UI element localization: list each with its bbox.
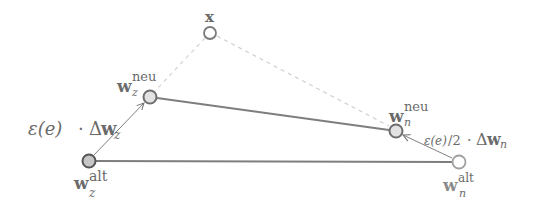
node-x <box>204 27 216 39</box>
label-wz-alt-sub: z <box>88 186 96 200</box>
annotation-winner-sub: z <box>113 128 121 142</box>
label-wn-alt-sub: n <box>459 187 466 200</box>
annotation-neighbor-delta: Δ <box>476 130 488 149</box>
label-wz-neu-sub: z <box>131 86 138 99</box>
annotation-winner-eps: ε(e) <box>28 118 62 139</box>
dashed-edge-x-wz-neu <box>155 38 205 91</box>
label-wz-neu-base: w <box>116 76 132 96</box>
annotation-neighbor-sub: n <box>500 138 507 151</box>
label-wn-alt-base: w <box>442 175 458 195</box>
node-wz-alt <box>83 155 96 168</box>
edge-wz-neu-wn-neu <box>157 98 389 130</box>
label-wz-alt: w alt z <box>73 168 108 200</box>
annotation-winner-update: ε(e) · Δ w z <box>28 118 121 142</box>
label-x: x <box>205 8 215 26</box>
label-wn-neu: w neu n <box>388 99 428 129</box>
annotation-neighbor-frac: /2 <box>448 133 461 148</box>
node-wn-neu <box>390 125 403 138</box>
node-wz-neu <box>144 91 157 104</box>
annotation-winner-dot: · <box>78 118 84 139</box>
annotation-neighbor-dot: · <box>467 132 471 148</box>
label-wz-alt-sup: alt <box>89 168 108 184</box>
label-wn-alt: w alt n <box>442 171 474 200</box>
node-wn-alt <box>453 156 466 169</box>
label-wn-neu-sup: neu <box>404 99 428 114</box>
label-wn-neu-sub: n <box>404 116 411 129</box>
label-wn-alt-sup: alt <box>458 171 474 185</box>
label-wz-alt-base: w <box>73 173 89 193</box>
label-wz-neu-sup: neu <box>132 69 156 84</box>
dashed-edge-x-wn-neu <box>217 36 389 126</box>
annotation-neighbor-update: ε(e) /2 · Δ w n <box>424 130 507 151</box>
annotation-neighbor-eps: ε(e) <box>424 134 447 148</box>
diagram-canvas: x w neu z w alt z w neu n w alt n ε(e) ·… <box>0 0 542 206</box>
edge-wz-alt-wn-alt <box>96 161 452 162</box>
label-wn-neu-base: w <box>388 106 404 126</box>
